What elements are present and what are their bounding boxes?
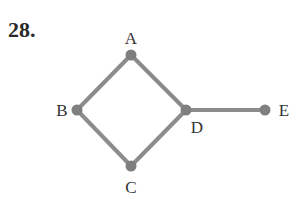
- edge-CD: [131, 110, 186, 166]
- edge-AD: [131, 55, 186, 110]
- node-label-D: D: [191, 118, 203, 137]
- node-label-B: B: [56, 101, 67, 120]
- node-label-C: C: [125, 178, 136, 197]
- graph-diagram: ABCDE: [0, 0, 303, 199]
- graph-edges: [77, 55, 265, 166]
- node-label-A: A: [125, 29, 138, 48]
- edge-BC: [77, 110, 131, 166]
- node-B: [72, 105, 83, 116]
- node-D: [181, 105, 192, 116]
- edge-AB: [77, 55, 131, 110]
- graph-labels: ABCDE: [56, 29, 289, 197]
- node-E: [260, 105, 271, 116]
- node-A: [126, 50, 137, 61]
- node-label-E: E: [279, 101, 289, 120]
- node-C: [126, 161, 137, 172]
